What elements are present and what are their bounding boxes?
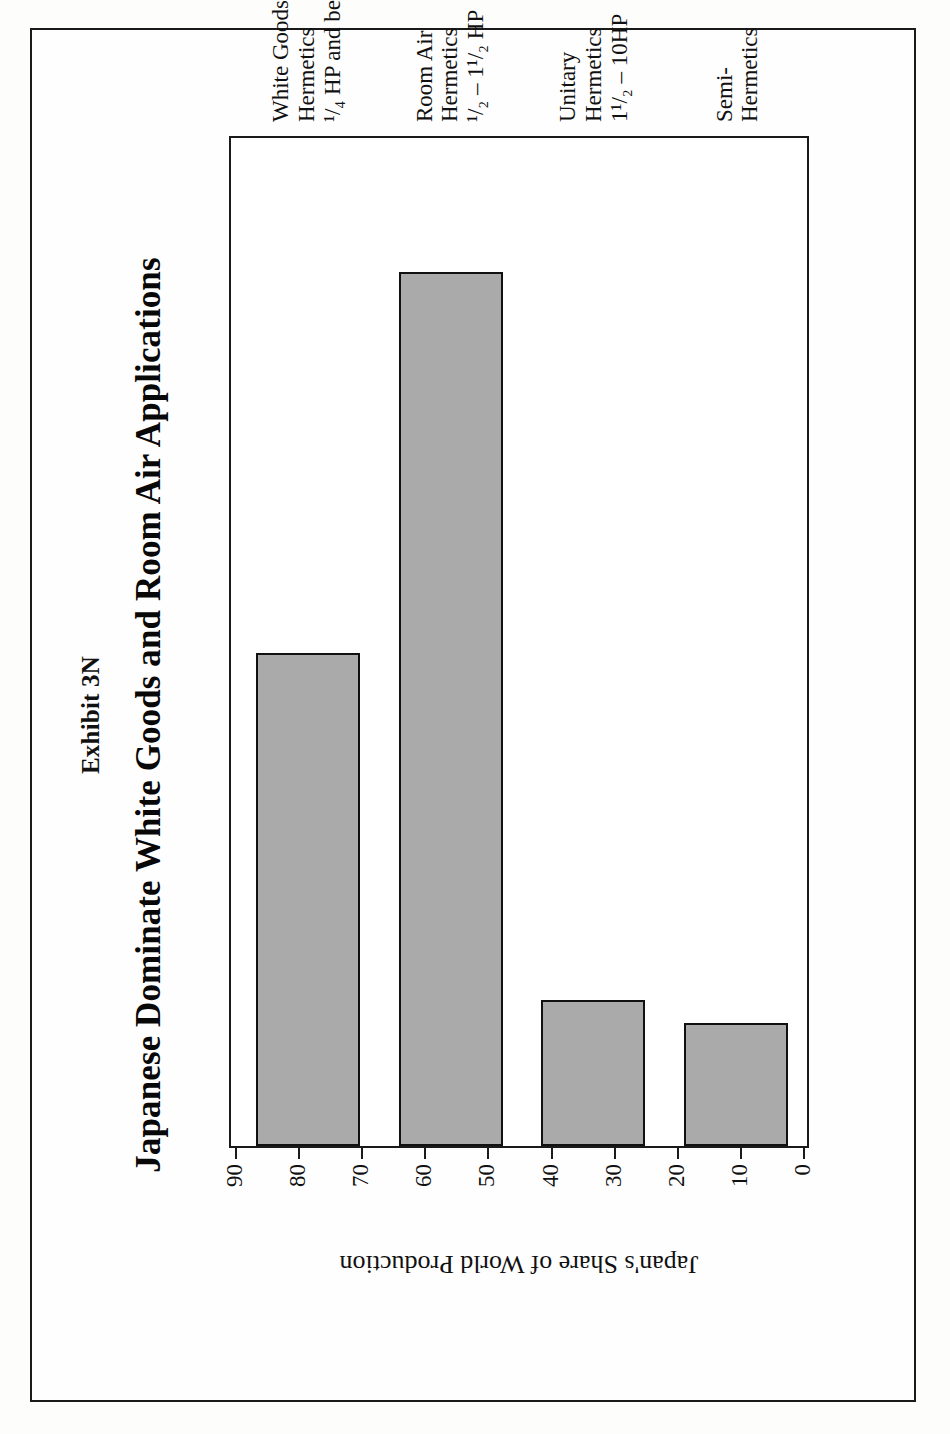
category-label: UnitaryHermetics1¹/₂ – 10HP bbox=[542, 0, 646, 136]
category-label-line: Room Air bbox=[412, 31, 438, 122]
y-axis-tick-label: 40 bbox=[538, 1164, 564, 1187]
y-axis-tick bbox=[361, 1148, 363, 1159]
category-axis-labels: White GoodsHermetics¹/₄ HP and belowRoom… bbox=[229, 0, 809, 136]
y-axis-tick-label: 0 bbox=[790, 1164, 816, 1176]
y-axis-tick bbox=[551, 1148, 553, 1159]
category-label-line: Hermetics bbox=[737, 27, 763, 122]
y-axis-tick bbox=[614, 1148, 616, 1159]
y-axis-title: Japan's Share of World Production bbox=[229, 1244, 809, 1284]
document-page: Exhibit 3N Japanese Dominate White Goods… bbox=[0, 0, 950, 1434]
category-label-line: Hermetics bbox=[581, 27, 607, 122]
y-axis: 0102030405060708090 bbox=[229, 1148, 809, 1188]
bar-row bbox=[256, 138, 360, 1146]
category-label: Room AirHermetics¹/₂ – 1¹/₂ HP bbox=[398, 0, 502, 136]
y-axis-tick bbox=[235, 1148, 237, 1159]
y-axis-tick-label: 50 bbox=[474, 1164, 500, 1187]
chart-title: Japanese Dominate White Goods and Room A… bbox=[129, 50, 169, 1380]
page-border-frame: Exhibit 3N Japanese Dominate White Goods… bbox=[30, 28, 916, 1402]
y-axis-tick bbox=[740, 1148, 742, 1159]
bar-series bbox=[231, 138, 807, 1146]
bar-3 bbox=[684, 1023, 788, 1146]
landscape-content-stage: Exhibit 3N Japanese Dominate White Goods… bbox=[43, 50, 903, 1380]
y-axis-tick-label: 70 bbox=[348, 1164, 374, 1187]
y-axis-tick bbox=[677, 1148, 679, 1159]
y-axis-tick bbox=[298, 1148, 300, 1159]
category-label-line: White Goods bbox=[268, 0, 294, 122]
y-axis-tick-label: 20 bbox=[664, 1164, 690, 1187]
y-axis-tick-label: 10 bbox=[727, 1164, 753, 1187]
category-label: Semi-Hermetics bbox=[685, 0, 789, 136]
y-axis-tick-label: 30 bbox=[601, 1164, 627, 1187]
category-label-line: Semi- bbox=[712, 67, 738, 122]
bar-row bbox=[541, 138, 645, 1146]
category-label-line: ¹/₄ HP and below bbox=[320, 0, 346, 122]
category-label-line: Hermetics bbox=[437, 27, 463, 122]
exhibit-label: Exhibit 3N bbox=[77, 50, 105, 1380]
category-label-line: Unitary bbox=[555, 52, 581, 122]
y-axis-tick-label: 90 bbox=[222, 1164, 248, 1187]
bar-2 bbox=[541, 1000, 645, 1146]
y-axis-tick-label: 60 bbox=[411, 1164, 437, 1187]
bar-row bbox=[399, 138, 503, 1146]
y-axis-tick-label: 80 bbox=[285, 1164, 311, 1187]
category-label-line: ¹/₂ – 1¹/₂ HP bbox=[463, 10, 489, 122]
bar-0 bbox=[256, 653, 360, 1146]
category-label-line: 1¹/₂ – 10HP bbox=[607, 14, 633, 122]
y-axis-tick bbox=[487, 1148, 489, 1159]
category-label: White GoodsHermetics¹/₄ HP and below bbox=[255, 0, 359, 136]
y-axis-tick bbox=[424, 1148, 426, 1159]
bar-row bbox=[684, 138, 788, 1146]
plot-area bbox=[229, 136, 809, 1148]
category-label-line: Hermetics bbox=[294, 27, 320, 122]
bar-1 bbox=[399, 272, 503, 1146]
y-axis-tick bbox=[803, 1148, 805, 1159]
